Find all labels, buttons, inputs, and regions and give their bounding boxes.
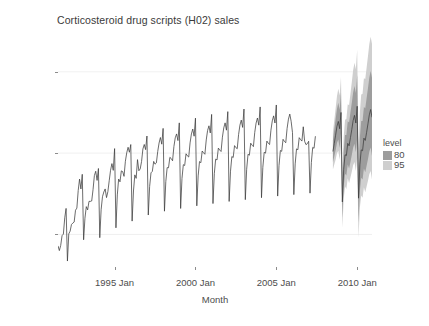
x-tick-label: 2000 Jan bbox=[176, 277, 215, 288]
x-tick-label: 2010 Jan bbox=[338, 277, 377, 288]
page-title: Corticosteroid drug scripts (H02) sales bbox=[57, 14, 239, 26]
y-tick-mark bbox=[55, 234, 58, 235]
x-tick-label: 2005 Jan bbox=[257, 277, 296, 288]
legend-item[interactable]: 95 bbox=[383, 160, 405, 170]
x-tick-mark bbox=[195, 267, 196, 270]
x-tick-mark bbox=[357, 267, 358, 270]
gridlines bbox=[58, 72, 372, 235]
plot-area bbox=[58, 36, 372, 267]
plot-panel bbox=[58, 36, 372, 267]
x-tick-mark bbox=[276, 267, 277, 270]
legend: level 8095 bbox=[383, 138, 405, 170]
x-tick-label: 1995 Jan bbox=[95, 277, 134, 288]
legend-swatch-icon bbox=[383, 161, 392, 170]
x-axis-title: Month bbox=[202, 294, 228, 305]
legend-item-label: 95 bbox=[394, 160, 405, 170]
legend-title: level bbox=[383, 138, 405, 148]
x-tick-mark bbox=[115, 267, 116, 270]
observed-series-line bbox=[58, 105, 315, 261]
y-tick-mark bbox=[55, 153, 58, 154]
legend-swatch-icon bbox=[383, 151, 392, 160]
legend-items: 8095 bbox=[383, 150, 405, 170]
forecast-chart: Corticosteroid drug scripts (H02) sales … bbox=[0, 0, 429, 326]
y-tick-mark bbox=[55, 72, 58, 73]
